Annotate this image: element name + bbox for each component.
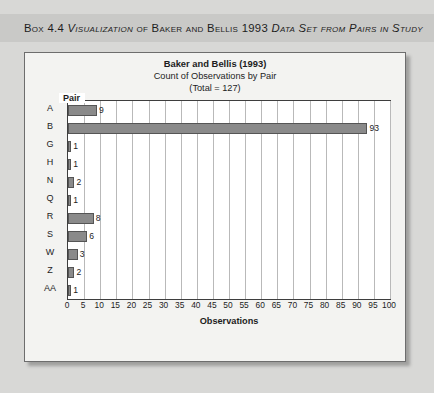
bar-row[interactable]: 3 <box>68 245 390 263</box>
plot-wrapper: Pair 993112186321 ABGHNQRSWZAA 051015202… <box>37 100 395 322</box>
bar-value-label: 2 <box>76 267 81 277</box>
x-axis-tick-label: 90 <box>352 300 361 310</box>
bar[interactable] <box>68 123 367 134</box>
plot-area: 993112186321 <box>67 100 391 300</box>
x-axis-tick-label: 30 <box>159 300 168 310</box>
bar[interactable] <box>68 159 71 170</box>
bar-row[interactable]: 1 <box>68 155 390 173</box>
y-axis-label: A <box>37 103 63 113</box>
bar-row[interactable]: 6 <box>68 227 390 245</box>
box-heading-band: Box 4.4 Visualization of Baker and Belli… <box>0 14 434 42</box>
x-axis-tick-label: 65 <box>272 300 281 310</box>
y-axis-label: G <box>37 139 63 149</box>
x-axis-tick-label: 75 <box>304 300 313 310</box>
bar[interactable] <box>68 213 94 224</box>
bar-rows: 993112186321 <box>68 101 390 299</box>
x-axis-tick-label: 55 <box>239 300 248 310</box>
x-axis-tick-label: 85 <box>336 300 345 310</box>
bar-row[interactable]: 1 <box>68 137 390 155</box>
bar[interactable] <box>68 285 71 296</box>
x-axis-tick-label: 40 <box>191 300 200 310</box>
bar-value-label: 93 <box>369 123 379 133</box>
bar-value-label: 1 <box>73 141 78 151</box>
x-axis-tick-label: 95 <box>368 300 377 310</box>
box-heading-italic-1: Visualization <box>67 22 133 34</box>
y-axis-label: S <box>37 229 63 239</box>
bar-value-label: 9 <box>99 105 104 115</box>
bar-value-label: 1 <box>73 159 78 169</box>
bar[interactable] <box>68 177 74 188</box>
x-axis-tick-label: 60 <box>256 300 265 310</box>
chart-card: Baker and Bellis (1993) Count of Observa… <box>24 52 406 362</box>
bar-row[interactable]: 2 <box>68 173 390 191</box>
x-axis-tick-label: 10 <box>95 300 104 310</box>
box-heading-text: Box 4.4 Visualization of Baker and Belli… <box>0 22 423 34</box>
x-axis-tick-label: 0 <box>65 300 70 310</box>
chart-subtitle: Count of Observations by Pair <box>25 70 405 82</box>
gridline <box>390 101 391 299</box>
bar-value-label: 8 <box>96 213 101 223</box>
bar-row[interactable]: 8 <box>68 209 390 227</box>
x-axis-ticks: 0510152025303540455055606570758085909510… <box>67 300 391 312</box>
y-axis-label: B <box>37 121 63 131</box>
x-axis-tick-label: 20 <box>127 300 136 310</box>
x-axis-tick-label: 80 <box>320 300 329 310</box>
bar-row[interactable]: 1 <box>68 191 390 209</box>
x-axis-tick-label: 45 <box>207 300 216 310</box>
y-axis-label: Q <box>37 193 63 203</box>
x-axis-tick-label: 50 <box>223 300 232 310</box>
y-axis-label: Z <box>37 265 63 275</box>
y-axis-label: H <box>37 157 63 167</box>
bar-row[interactable]: 1 <box>68 281 390 299</box>
y-axis-label: N <box>37 175 63 185</box>
bar[interactable] <box>68 267 74 278</box>
bar-row[interactable]: 9 <box>68 101 390 119</box>
bar-value-label: 6 <box>89 231 94 241</box>
y-axis-title: Pair <box>59 93 85 103</box>
bar[interactable] <box>68 249 78 260</box>
bar-value-label: 1 <box>73 285 78 295</box>
bar[interactable] <box>68 195 71 206</box>
box-heading-prefix: Box 4.4 <box>24 22 67 34</box>
y-axis-label: AA <box>37 283 63 293</box>
chart-title-block: Baker and Bellis (1993) Count of Observa… <box>25 53 405 94</box>
bar-value-label: 2 <box>76 177 81 187</box>
bar-value-label: 3 <box>80 249 85 259</box>
box-heading-italic-2: Data Set from Pairs in Study <box>271 22 422 34</box>
x-axis-tick-label: 100 <box>382 300 396 310</box>
bar[interactable] <box>68 105 97 116</box>
x-axis-tick-label: 25 <box>143 300 152 310</box>
y-axis-label: W <box>37 247 63 257</box>
bar-value-label: 1 <box>73 195 78 205</box>
x-axis-tick-label: 70 <box>288 300 297 310</box>
x-axis-tick-label: 5 <box>81 300 86 310</box>
box-heading-mid: of Baker and Bellis 1993 <box>133 22 271 34</box>
x-axis-tick-label: 35 <box>175 300 184 310</box>
chart-title: Baker and Bellis (1993) <box>25 58 405 70</box>
x-axis-tick-label: 15 <box>111 300 120 310</box>
bar-row[interactable]: 2 <box>68 263 390 281</box>
bar[interactable] <box>68 141 71 152</box>
y-axis-label: R <box>37 211 63 221</box>
x-axis-title: Observations <box>67 316 391 326</box>
bar[interactable] <box>68 231 87 242</box>
bar-row[interactable]: 93 <box>68 119 390 137</box>
